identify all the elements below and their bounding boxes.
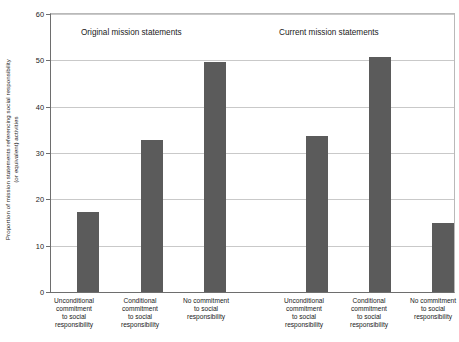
x-category-label-1-line1: Unconditional [42,297,106,305]
y-tick-label-30: 30 [36,149,44,158]
x-category-label-4-line3: to social [272,313,336,321]
y-tick-label-50: 50 [36,56,44,65]
x-category-label-1-line2: commitment [42,305,106,313]
tickmark-10 [46,246,51,247]
y-axis-label-line2: (or equivalent) activities [12,59,20,240]
y-tick-label-20: 20 [36,195,44,204]
x-category-label-3-line1: No commitment [171,297,241,305]
plot-area: 60 50 40 30 20 10 0 [50,13,455,293]
tickmark-60 [46,14,51,15]
gridline-60 [51,14,454,15]
x-category-label-1-line3: to social [42,313,106,321]
x-category-label-4: Unconditional commitment to social respo… [272,297,336,329]
x-category-label-2-line4: responsibility [108,321,172,329]
tickmark-50 [46,60,51,61]
bar-original-no-commitment [204,62,226,292]
bar-original-conditional [141,140,163,292]
x-category-label-5-line1: Conditional [337,297,401,305]
x-category-label-4-line2: commitment [272,305,336,313]
y-tick-label-0: 0 [40,288,44,297]
y-tick-label-60: 60 [36,10,44,19]
tickmark-20 [46,199,51,200]
x-category-label-3-line3: responsibility [171,313,241,321]
bar-current-conditional [369,57,391,292]
x-category-label-5-line4: responsibility [337,321,401,329]
gridline-10 [51,246,454,247]
group-title-original: Original mission statements [81,28,182,37]
x-category-label-6-line1: No commitment [398,297,459,305]
gridline-40 [51,107,454,108]
x-category-label-3-line2: to social [171,305,241,313]
bar-current-unconditional [306,136,328,292]
tickmark-0 [46,292,51,293]
x-category-label-4-line4: responsibility [272,321,336,329]
bar-chart-figure: Proportion of mission statements referen… [0,0,459,342]
gridline-30 [51,153,454,154]
x-category-label-2-line2: commitment [108,305,172,313]
x-category-label-5-line2: commitment [337,305,401,313]
tickmark-40 [46,107,51,108]
x-category-label-2: Conditional commitment to social respons… [108,297,172,329]
x-category-label-6-line3: responsibility [398,313,459,321]
y-axis-label: Proportion of mission statements referen… [0,0,24,300]
x-category-label-5: Conditional commitment to social respons… [337,297,401,329]
x-category-label-4-line1: Unconditional [272,297,336,305]
y-tick-label-10: 10 [36,241,44,250]
x-category-label-1: Unconditional commitment to social respo… [42,297,106,329]
x-category-label-1-line4: responsibility [42,321,106,329]
x-category-label-6-line2: to social [398,305,459,313]
x-category-label-2-line1: Conditional [108,297,172,305]
gridline-20 [51,199,454,200]
y-tick-label-40: 40 [36,102,44,111]
bar-current-no-commitment [432,223,454,292]
gridline-50 [51,60,454,61]
tickmark-30 [46,153,51,154]
bar-original-unconditional [77,212,99,292]
y-axis-label-line1: Proportion of mission statements referen… [4,59,11,240]
x-category-label-5-line3: to social [337,313,401,321]
x-category-label-3: No commitment to social responsibility [171,297,241,321]
group-title-current: Current mission statements [279,28,379,37]
x-category-label-6: No commitment to social responsibility [398,297,459,321]
x-category-label-2-line3: to social [108,313,172,321]
